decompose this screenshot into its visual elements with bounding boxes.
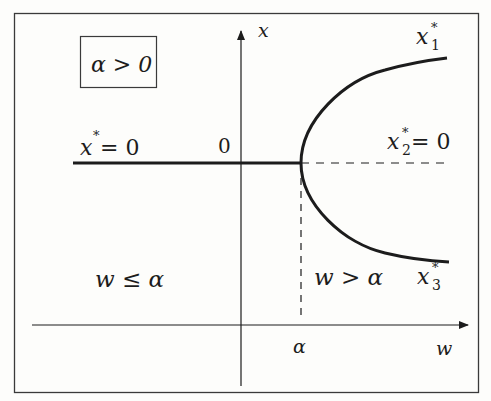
svg-text:2: 2 [402, 142, 411, 158]
svg-text:x: x [416, 24, 429, 49]
vertical-axis-label: x [258, 19, 269, 41]
svg-text:x: x [80, 135, 93, 160]
svg-text:1: 1 [431, 37, 440, 53]
x3-label: x * 3 [417, 260, 441, 293]
svg-text:*: * [431, 20, 438, 35]
x2-label: x * 2 = 0 [387, 125, 450, 158]
bifurcation-diagram: α > 0 x w 0 α x * = 0 x * 1 x * 2 = 0 x … [0, 0, 491, 401]
horizontal-axis-label: w [436, 337, 452, 359]
svg-text:x: x [417, 264, 430, 289]
alpha-tick-label: α [293, 335, 306, 357]
svg-text:*: * [93, 128, 100, 143]
svg-text:*: * [402, 125, 409, 140]
svg-text:= 0: = 0 [100, 135, 139, 160]
svg-text:x: x [387, 129, 400, 154]
branch-x3 [301, 163, 449, 262]
trivial-left-label: x * = 0 [80, 128, 139, 160]
outer-frame [15, 14, 479, 393]
region-right-label: w > α [314, 264, 384, 290]
svg-text:3: 3 [432, 277, 441, 293]
svg-text:*: * [432, 260, 439, 275]
origin-label: 0 [218, 134, 231, 158]
condition-label: α > 0 [91, 52, 152, 77]
svg-text:= 0: = 0 [411, 129, 450, 154]
x1-label: x * 1 [416, 20, 440, 53]
region-left-label: w ≤ α [95, 266, 165, 292]
